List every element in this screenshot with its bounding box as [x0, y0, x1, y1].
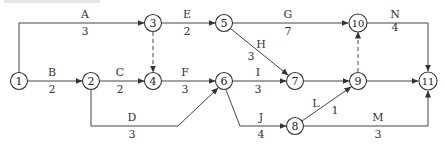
activity-b-name: B: [48, 66, 56, 79]
node-4: 4: [145, 73, 162, 90]
activity-h-name: H: [256, 38, 266, 51]
activity-d-duration: 3: [129, 128, 136, 141]
node-3-label: 3: [150, 17, 157, 30]
activity-d-arrow: [91, 88, 218, 126]
node-9-label: 9: [355, 75, 362, 88]
node-1: 1: [11, 73, 28, 90]
node-6: 6: [216, 73, 233, 90]
node-7-label: 7: [292, 75, 299, 88]
activity-l-name: L: [312, 97, 320, 110]
node-6-label: 6: [221, 75, 228, 88]
node-10: 10: [349, 14, 367, 32]
node-3: 3: [145, 15, 162, 32]
activity-c-name: C: [116, 66, 124, 79]
activity-i-duration: 3: [255, 83, 262, 96]
activity-n-name: N: [390, 8, 400, 21]
activity-e-duration: 2: [184, 25, 191, 38]
activity-n-duration: 4: [392, 21, 399, 34]
node-10-label: 10: [352, 18, 365, 29]
activity-a-name: A: [80, 8, 90, 21]
node-9: 9: [350, 73, 367, 90]
activity-m-arrow: [304, 91, 428, 126]
activity-a-duration: 3: [82, 25, 89, 38]
activity-f-name: F: [181, 66, 189, 79]
node-1-label: 1: [16, 75, 23, 88]
activity-m-name: M: [372, 111, 383, 124]
node-7: 7: [287, 73, 304, 90]
activity-g-name: G: [284, 8, 293, 21]
activity-b-duration: 2: [49, 83, 56, 96]
node-8: 8: [287, 118, 304, 135]
node-8-label: 8: [292, 120, 299, 133]
activity-h-duration: 3: [248, 50, 255, 63]
node-4-label: 4: [150, 75, 157, 88]
node-2: 2: [83, 73, 100, 90]
activity-e-name: E: [183, 8, 191, 21]
activity-m-duration: 3: [375, 128, 382, 141]
activity-c-duration: 2: [117, 83, 124, 96]
node-5-label: 5: [221, 17, 228, 30]
node-11: 11: [419, 72, 437, 90]
node-2-label: 2: [88, 75, 95, 88]
activity-l-duration: 1: [332, 104, 339, 117]
activity-l-arrow: [302, 87, 351, 121]
node-5: 5: [216, 15, 233, 32]
activity-f-duration: 3: [182, 83, 189, 96]
cropped-text-residue: [4, 0, 100, 3]
activity-g-duration: 7: [285, 25, 292, 38]
activity-d-name: D: [128, 111, 137, 124]
network-diagram: A 3 B 2 C 2 D 3 E 2 F 3 G 7 H 3 I 3 J 4 …: [0, 0, 445, 145]
activity-j-name: J: [258, 111, 263, 124]
node-11-label: 11: [422, 76, 435, 87]
activity-j-duration: 4: [258, 128, 265, 141]
activity-i-name: I: [256, 66, 260, 79]
